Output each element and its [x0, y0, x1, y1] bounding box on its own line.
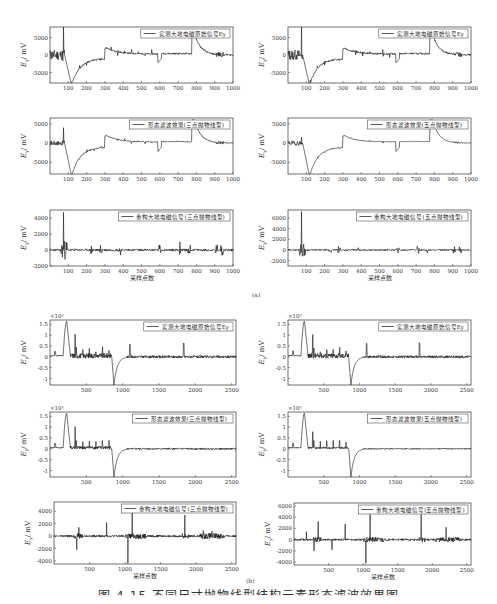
y-tick-label: 4000 [272, 226, 286, 232]
y-axis-label: Ey/ mV [258, 225, 267, 251]
x-tick-label: 2500 [460, 387, 474, 393]
y-tick-label: -5000 [32, 70, 48, 76]
chart-panel-a2: 1002003004005006007008009001000-50000500… [243, 17, 476, 105]
legend: 形态滤波效果(五点抛物线型) [368, 414, 468, 423]
y-tick-label: -2000 [276, 548, 292, 554]
legend: 形态滤波效果(三点抛物线型) [130, 120, 230, 129]
chart-panel-b4: 5001000150020002500-1-0.500.511.5×10⁴Ey/… [243, 402, 476, 499]
legend: 实测大地电磁原始信号Ey [144, 322, 233, 331]
y-tick-label: 0.5 [277, 435, 286, 441]
x-tick-label: 100 [301, 85, 312, 91]
x-tick-label: 1000 [226, 85, 240, 91]
x-tick-label: 1000 [226, 176, 240, 182]
x-tick-label: 700 [411, 268, 422, 274]
x-tick-label: 800 [429, 268, 440, 274]
x-tick-label: 400 [356, 85, 367, 91]
legend: 实测大地电磁原始信号Ey [379, 322, 468, 331]
x-tick-label: 800 [191, 268, 202, 274]
legend-label: 重构大地电磁信号(三点抛物线型) [139, 505, 227, 513]
x-tick-label: 1000 [356, 567, 370, 573]
x-tick-label: 1000 [116, 479, 130, 485]
legend-label: 重构大地电磁信号(三点抛物线型) [136, 213, 224, 221]
y-tick-label: -0.5 [275, 457, 286, 463]
x-tick-label: 2000 [188, 387, 202, 393]
legend: 重构大地电磁信号(三点抛物线型) [121, 504, 233, 513]
y-tick-label: 4000 [34, 215, 48, 221]
x-tick-label: 500 [84, 566, 95, 572]
x-tick-label: 1500 [152, 387, 166, 393]
x-tick-label: 600 [393, 176, 404, 182]
y-tick-label: 0.5 [39, 343, 48, 349]
x-tick-label: 2500 [225, 566, 239, 572]
x-tick-label: 300 [338, 85, 349, 91]
legend-label: 重构大地电磁信号(五点抛物线型) [374, 213, 462, 221]
y-tick-label: -1 [281, 468, 286, 474]
legend: 实测大地电磁原始信号Ey [141, 29, 230, 38]
x-tick-label: 400 [118, 268, 129, 274]
y-tick-label: -5000 [270, 159, 286, 165]
y-axis-label: Ey/ mV [20, 133, 29, 159]
chart-panel-b2: 5001000150020002500-1-0.500.511.5×10⁴Ey/… [243, 310, 476, 407]
x-tick-label: 900 [447, 176, 458, 182]
x-axis-label: 采样点数 [133, 572, 157, 580]
x-tick-label: 200 [81, 85, 92, 91]
y-tick-label: -5000 [270, 70, 286, 76]
x-tick-label: 1000 [464, 176, 478, 182]
x-tick-label: 600 [393, 85, 404, 91]
y-tick-label: 5000 [272, 35, 286, 41]
y-tick-label: 1.5 [277, 413, 286, 419]
legend-label: 形态滤波效果(三点抛物线型) [148, 121, 224, 129]
x-tick-label: 200 [319, 268, 330, 274]
y-tick-label: -1 [43, 468, 48, 474]
figure-caption: 图 4-15 不同尺寸抛物线型结构元素形态滤波效果图 [0, 586, 497, 603]
y-tick-label: 5000 [272, 121, 286, 127]
x-tick-label: 200 [81, 268, 92, 274]
y-tick-label: 2000 [272, 236, 286, 242]
x-axis-label: 采样点数 [371, 573, 395, 581]
y-tick-label: 1 [283, 332, 287, 338]
x-tick-label: 400 [118, 176, 129, 182]
y-tick-label: 0 [45, 354, 49, 360]
x-tick-label: 2500 [460, 479, 474, 485]
legend-label: 实测大地电磁原始信号Ey [159, 30, 227, 38]
x-tick-label: 300 [100, 85, 111, 91]
chart-panel-a5: 1002003004005006007008009001000-20000200… [5, 200, 238, 288]
y-tick-label: -0.5 [275, 365, 286, 371]
x-tick-label: 300 [338, 268, 349, 274]
legend-label: 重构大地电磁信号(五点抛物线型) [376, 506, 464, 514]
x-tick-label: 600 [393, 268, 404, 274]
x-axis-label: 采样点数 [130, 274, 154, 282]
y-axis-label: Ey/ mV [258, 432, 267, 458]
x-tick-label: 2500 [460, 567, 474, 573]
y-tick-label: 6000 [278, 503, 292, 509]
legend-label: 形态滤波效果(五点抛物线型) [386, 121, 462, 129]
x-tick-label: 1000 [464, 268, 478, 274]
x-tick-label: 700 [173, 176, 184, 182]
y-tick-label: 1.5 [39, 413, 48, 419]
axis-multiplier: ×10⁴ [50, 405, 65, 411]
x-tick-label: 2000 [188, 479, 202, 485]
y-tick-label: 0 [283, 354, 287, 360]
y-tick-label: 1 [45, 424, 49, 430]
y-tick-label: -1 [43, 376, 48, 382]
legend: 重构大地电磁信号(三点抛物线型) [118, 212, 230, 221]
y-axis-label: Ey/ mV [20, 42, 29, 68]
legend: 重构大地电磁信号(五点抛物线型) [356, 212, 468, 221]
x-tick-label: 800 [429, 85, 440, 91]
y-tick-label: 1.5 [39, 321, 48, 327]
x-tick-label: 500 [81, 387, 92, 393]
x-tick-label: 500 [136, 176, 147, 182]
y-tick-label: 0 [45, 52, 49, 58]
y-tick-label: 2000 [38, 521, 52, 527]
y-tick-label: 6000 [272, 215, 286, 221]
x-tick-label: 900 [209, 176, 220, 182]
x-tick-label: 100 [63, 85, 74, 91]
chart-panel-a1: 1002003004005006007008009001000-50000500… [5, 17, 238, 105]
y-axis-label: Ey/ mV [24, 520, 33, 546]
y-tick-label: 0 [289, 537, 293, 543]
y-axis-label: Ey/ mV [258, 42, 267, 68]
x-tick-label: 1000 [118, 566, 132, 572]
axis-multiplier: ×10⁴ [288, 405, 303, 411]
x-tick-label: 800 [191, 176, 202, 182]
legend-label: 实测大地电磁原始信号Ey [397, 30, 465, 38]
